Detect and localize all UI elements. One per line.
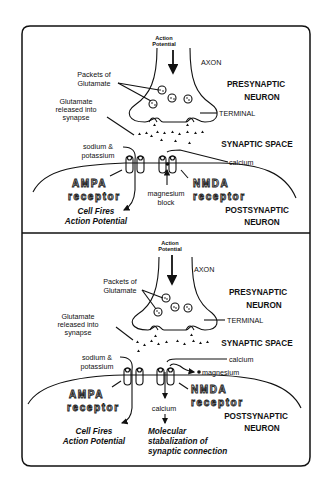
nmda-label: NMDA <box>193 178 229 189</box>
terminal-label: TERMINAL <box>219 109 255 118</box>
nmda-label-2: receptor <box>191 397 244 408</box>
cell-fires-label-2: Action Potential <box>64 217 128 226</box>
presynaptic-label-2: NEURON <box>246 301 282 310</box>
molecular-stabilization-label-3: synaptic connection <box>148 447 227 456</box>
action-potential-label-2: Potential <box>152 41 176 47</box>
glutamate-molecules <box>138 124 204 145</box>
ampa-label-2: receptor <box>68 191 121 202</box>
nmda-label: NMDA <box>191 384 227 395</box>
sodium-label-2: potassium <box>81 362 114 371</box>
axon-label: AXON <box>194 265 214 274</box>
packets-label-2: Glutamate <box>77 79 110 88</box>
postsynaptic-label-2: NEURON <box>244 424 280 433</box>
ampa-receptor-channels <box>124 368 143 385</box>
synaptic-space-label: SYNAPTIC SPACE <box>221 140 293 149</box>
cell-fires-label: Cell Fires <box>76 427 113 436</box>
synaptic-space-label: SYNAPTIC SPACE <box>221 339 293 348</box>
released-pointer <box>116 327 133 340</box>
panel-2: Action Potential AXON Packets of Glutama… <box>28 240 301 456</box>
magnesium-block-icon <box>166 162 170 166</box>
sodium-label: sodium & <box>83 142 113 151</box>
magnesium-ion-icon <box>197 370 201 374</box>
magnesium-block-label: magnesium <box>147 189 184 198</box>
sodium-label: sodium & <box>82 353 112 362</box>
cell-fires-label: Cell Fires <box>78 207 115 216</box>
ion-flow-arrow <box>120 357 132 423</box>
nmda-pointer <box>179 383 188 389</box>
glutamate-released-label-3: synapse <box>63 113 90 122</box>
panel-1: Action Potential AXON Packets of Glutama… <box>33 35 296 227</box>
calcium-label: calcium <box>229 355 253 364</box>
magnesium-block-label-2: block <box>158 198 175 207</box>
molecular-stabilization-label-2: stabalization of <box>148 437 209 446</box>
postsynaptic-label-2: NEURON <box>244 218 280 227</box>
glutamate-vesicles <box>150 294 194 330</box>
glutamate-vesicles <box>149 86 194 122</box>
action-potential-label-2: Potential <box>158 246 182 252</box>
calcium-pointer <box>167 359 227 362</box>
nmda-label-2: receptor <box>193 191 246 202</box>
presynaptic-label-2: NEURON <box>244 93 280 102</box>
ampa-pointer <box>112 381 121 387</box>
presynaptic-label: PRESYNAPTIC <box>227 80 285 89</box>
cell-fires-label-2: Action Potential <box>62 437 126 446</box>
packets-label: Packets of <box>103 277 137 286</box>
postsynaptic-label: POSTSYNAPTIC <box>224 412 288 421</box>
postsynaptic-label: POSTSYNAPTIC <box>225 206 289 215</box>
axon-label: AXON <box>201 58 221 67</box>
nmda-pointer <box>181 170 188 178</box>
presynaptic-label: PRESYNAPTIC <box>229 288 287 297</box>
released-pointer <box>107 117 134 135</box>
ampa-label: AMPA <box>72 178 107 189</box>
ampa-label: AMPA <box>69 389 104 400</box>
glutamate-released-label-3: synapse <box>65 328 92 337</box>
terminal-label: TERMINAL <box>227 316 263 325</box>
ampa-label-2: receptor <box>67 402 120 413</box>
synapse-diagram: Action Potential AXON Packets of Glutama… <box>0 0 325 489</box>
glutamate-molecules <box>136 334 209 353</box>
ampa-pointer <box>110 170 122 176</box>
packets-label-2: Glutamate <box>103 286 136 295</box>
sodium-label-2: potassium <box>82 151 115 160</box>
packets-label: Packets of <box>77 70 111 79</box>
calcium-down-label: calcium <box>152 404 176 413</box>
molecular-stabilization-label: Molecular <box>148 427 187 436</box>
